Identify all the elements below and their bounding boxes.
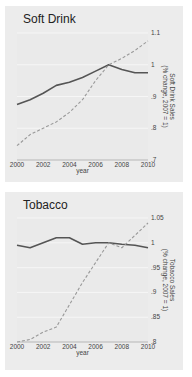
plot-area: [17, 218, 148, 342]
x-tick-label: 2000: [10, 161, 25, 168]
y-tick-label: 1: [151, 239, 155, 246]
y-axis-label: Soft Drink Sales(% change, 2007 = 1): [161, 65, 176, 127]
y-tick-label: .8: [151, 124, 157, 131]
chart-panel-soft-drink: Soft Drink .7.8.911.12000200220042006200…: [5, 6, 183, 182]
y-axis-label: Tobacco Sales(% change, 2007 = 1): [161, 249, 176, 311]
x-tick-label: 2006: [88, 343, 103, 350]
x-tick-label: 2004: [62, 343, 77, 350]
x-tick-label: 2002: [36, 161, 51, 168]
y-tick-label: .95: [151, 264, 160, 271]
chart-panel-tobacco: Tobacco .8.85.9.9511.0520002002200420062…: [5, 192, 183, 370]
y-tick-label: 1: [151, 61, 155, 68]
x-tick-label: 2010: [141, 343, 156, 350]
y-tick-label: 1.1: [151, 29, 160, 36]
tobacco-chart: .8.85.9.9511.05200020022004200620082010y…: [5, 192, 183, 370]
y-tick-label: .85: [151, 313, 160, 320]
x-tick-label: 2008: [115, 161, 130, 168]
x-tick-label: 2010: [141, 161, 156, 168]
x-tick-label: 2006: [88, 161, 103, 168]
y-tick-label: .9: [151, 93, 157, 100]
x-tick-label: 2002: [36, 343, 51, 350]
y-tick-label: .9: [151, 288, 157, 295]
soft-drink-chart: .7.8.911.1200020022004200620082010yearSo…: [5, 6, 183, 182]
x-axis-label: year: [76, 167, 89, 175]
x-tick-label: 2008: [115, 343, 130, 350]
x-tick-label: 2000: [10, 343, 25, 350]
y-tick-label: 1.05: [151, 214, 164, 221]
x-tick-label: 2004: [62, 161, 77, 168]
x-axis-label: year: [76, 349, 89, 357]
